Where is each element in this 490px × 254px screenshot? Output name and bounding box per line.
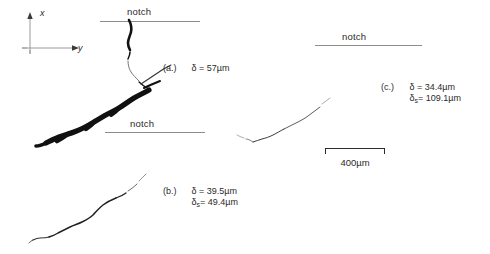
- notch-rule-c: [315, 45, 422, 46]
- scale-bar-line: [325, 148, 385, 156]
- notch-label-b: notch: [130, 118, 154, 129]
- panel-c-delta: δ = 34.4µm: [410, 82, 461, 93]
- panel-c-tag: (c.): [381, 82, 407, 93]
- panel-b-delta-s: δs= 49.4µm: [192, 197, 238, 210]
- panel-c-caption: (c.) δ = 34.4µm δs= 109.1µm: [381, 82, 461, 106]
- panel-b-caption: (b.) δ = 39.5µm δs= 49.4µm: [163, 186, 238, 210]
- axes-indicator: x y: [18, 10, 90, 60]
- notch-label-a: notch: [127, 6, 151, 17]
- notch-label-c: notch: [342, 31, 366, 42]
- crack-path-b: [29, 174, 146, 243]
- panel-c-delta-s-value: = 109.1µm: [418, 93, 461, 103]
- panel-c-delta-s: δs= 109.1µm: [410, 93, 461, 106]
- panel-b-delta-s-value: = 49.4µm: [200, 197, 238, 207]
- panel-b-tag: (b.): [163, 186, 189, 197]
- scale-bar-label: 400µm: [325, 157, 385, 168]
- axis-y-label: y: [78, 43, 83, 53]
- notch-rule-a: [100, 21, 200, 22]
- scale-bar: 400µm: [325, 148, 385, 168]
- panel-a-caption: (a.) δ = 57µm: [163, 63, 229, 74]
- panel-a-tag: (a.): [163, 63, 189, 74]
- crack-path-c: [237, 98, 330, 142]
- axis-x-label: x: [40, 8, 45, 18]
- panel-a-delta: δ = 57µm: [192, 63, 230, 74]
- notch-rule-b: [105, 132, 205, 133]
- fracture-figure: x y notch notch notch: [0, 0, 490, 254]
- panel-b-delta: δ = 39.5µm: [192, 186, 238, 197]
